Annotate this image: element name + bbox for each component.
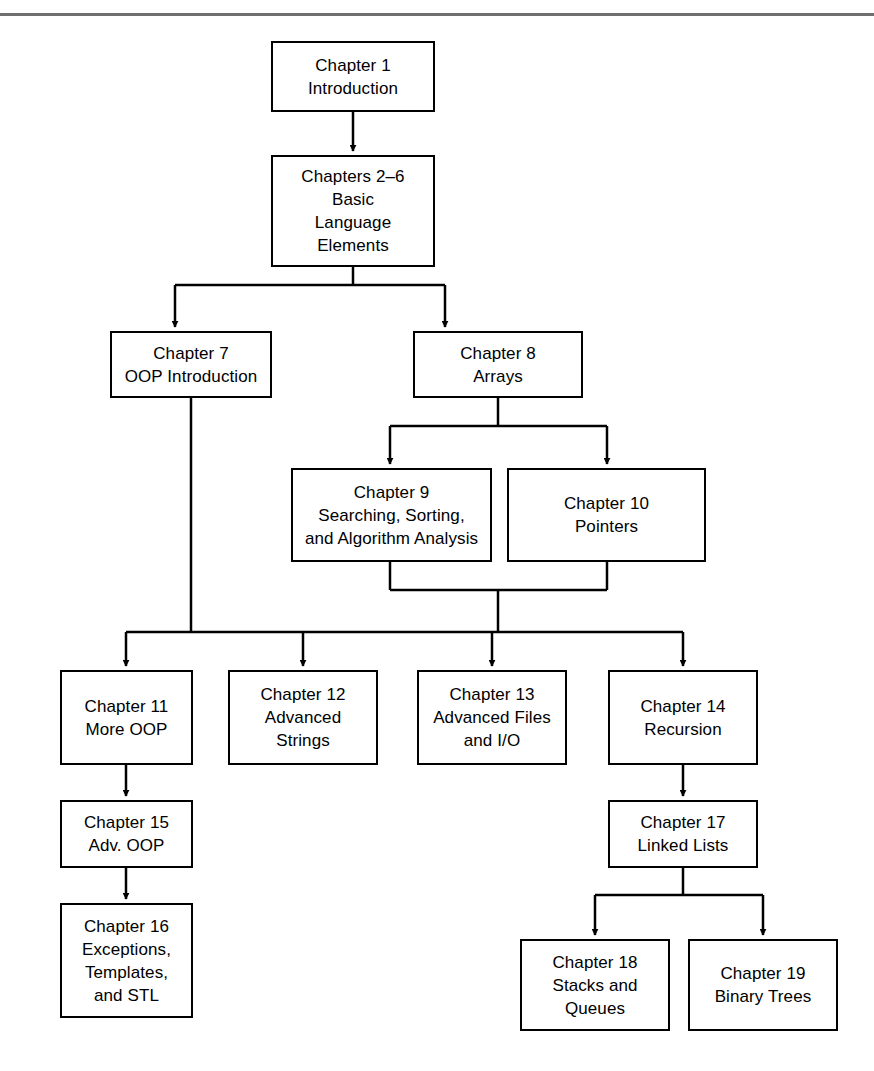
node-chapter-12[interactable]: Chapter 12 Advanced Strings [228, 670, 378, 765]
node-chapter-11[interactable]: Chapter 11 More OOP [60, 670, 193, 765]
node-chapter-13[interactable]: Chapter 13 Advanced Files and I/O [417, 670, 567, 765]
node-chapter-17[interactable]: Chapter 17 Linked Lists [608, 800, 758, 868]
node-chapter-8[interactable]: Chapter 8 Arrays [413, 331, 583, 398]
node-chapter-18[interactable]: Chapter 18 Stacks and Queues [520, 939, 670, 1031]
node-chapter-16[interactable]: Chapter 16 Exceptions, Templates, and ST… [60, 903, 193, 1018]
flowchart-page: Chapter 1 Introduction Chapters 2–6 Basi… [0, 0, 874, 1071]
node-chapter-1[interactable]: Chapter 1 Introduction [271, 41, 435, 112]
node-chapter-19[interactable]: Chapter 19 Binary Trees [688, 939, 838, 1031]
node-chapter-9[interactable]: Chapter 9 Searching, Sorting, and Algori… [291, 468, 492, 562]
node-chapter-10[interactable]: Chapter 10 Pointers [507, 468, 706, 562]
node-chapter-15[interactable]: Chapter 15 Adv. OOP [60, 800, 193, 868]
node-chapters-2-6[interactable]: Chapters 2–6 Basic Language Elements [271, 155, 435, 267]
node-chapter-7[interactable]: Chapter 7 OOP Introduction [110, 331, 272, 398]
node-chapter-14[interactable]: Chapter 14 Recursion [608, 670, 758, 765]
